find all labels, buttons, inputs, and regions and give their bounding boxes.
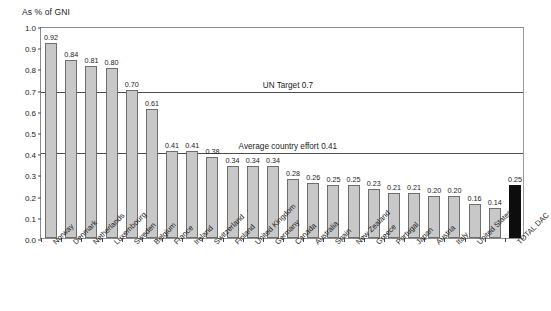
bar[interactable] xyxy=(106,68,118,238)
bar-value-label: 0.70 xyxy=(125,80,139,89)
y-axis-tick-label: 0.8 xyxy=(25,66,36,75)
plot-area: 1.00.90.80.70.60.50.40.30.20.10.0 UN Tar… xyxy=(40,27,524,239)
y-axis-tick-label: 0.2 xyxy=(25,193,36,202)
bar-group: 0.14 xyxy=(485,28,505,238)
y-axis-tick-label: 0.0 xyxy=(25,236,36,245)
bar-group: 0.25 xyxy=(344,28,364,238)
bar[interactable] xyxy=(65,60,77,238)
bar-group: 0.84 xyxy=(61,28,81,238)
bar-group: 0.34 xyxy=(223,28,243,238)
y-axis-tick-label: 0.9 xyxy=(25,45,36,54)
bar-group: 0.16 xyxy=(465,28,485,238)
y-axis-tick-label: 0.7 xyxy=(25,87,36,96)
bar-group: 0.34 xyxy=(243,28,263,238)
bar-group: 0.92 xyxy=(41,28,61,238)
bar-group: 0.21 xyxy=(404,28,424,238)
bar-value-label: 0.34 xyxy=(246,156,260,165)
bar-value-label: 0.25 xyxy=(326,175,340,184)
bar-group: 0.41 xyxy=(182,28,202,238)
bar-group: 0.25 xyxy=(323,28,343,238)
bar-value-label: 0.34 xyxy=(226,156,240,165)
bar-value-label: 0.25 xyxy=(508,175,522,184)
bar-value-label: 0.41 xyxy=(185,141,199,150)
bar-group: 0.26 xyxy=(303,28,323,238)
y-axis-tick-label: 0.1 xyxy=(25,214,36,223)
chart-container: As % of GNI 1.00.90.80.70.60.50.40.30.20… xyxy=(0,0,551,311)
bar-value-label: 0.26 xyxy=(306,173,320,182)
bar-group: 0.61 xyxy=(142,28,162,238)
bar-value-label: 0.21 xyxy=(407,183,421,192)
bar-value-label: 0.84 xyxy=(64,50,78,59)
bar-group: 0.34 xyxy=(263,28,283,238)
bar-value-label: 0.20 xyxy=(427,186,441,195)
bar-value-label: 0.61 xyxy=(145,99,159,108)
bar-group: 0.80 xyxy=(102,28,122,238)
bar-value-label: 0.16 xyxy=(468,194,482,203)
bar-value-label: 0.34 xyxy=(266,156,280,165)
bar[interactable] xyxy=(45,43,57,238)
bar-value-label: 0.81 xyxy=(84,56,98,65)
bar-series: 0.920.840.810.800.700.610.410.410.380.34… xyxy=(41,28,523,238)
bar[interactable] xyxy=(469,204,481,238)
y-axis-tick-label: 1.0 xyxy=(25,24,36,33)
bar-group: 0.70 xyxy=(122,28,142,238)
x-axis-labels: NorwayDenmarkNetherlandsLuxembourgSweden… xyxy=(40,240,524,311)
y-axis-tick-label: 0.4 xyxy=(25,151,36,160)
bar[interactable] xyxy=(146,109,158,238)
bar-group: 0.20 xyxy=(444,28,464,238)
bar-group: 0.21 xyxy=(384,28,404,238)
bar-value-label: 0.41 xyxy=(165,141,179,150)
bar-value-label: 0.38 xyxy=(205,147,219,156)
bar-group: 0.20 xyxy=(424,28,444,238)
bar-group: 0.25 xyxy=(505,28,525,238)
bar-value-label: 0.23 xyxy=(367,179,381,188)
bar-value-label: 0.25 xyxy=(347,175,361,184)
bar-value-label: 0.80 xyxy=(105,58,119,67)
y-axis-tick-label: 0.6 xyxy=(25,108,36,117)
bar-value-label: 0.28 xyxy=(286,169,300,178)
y-axis-tick-label: 0.3 xyxy=(25,172,36,181)
bar-group: 0.41 xyxy=(162,28,182,238)
bar-value-label: 0.14 xyxy=(488,198,502,207)
bar-value-label: 0.92 xyxy=(44,33,58,42)
bar-group: 0.23 xyxy=(364,28,384,238)
bar-group: 0.38 xyxy=(202,28,222,238)
y-axis-tick-label: 0.5 xyxy=(25,130,36,139)
bar-group: 0.81 xyxy=(81,28,101,238)
bar-value-label: 0.21 xyxy=(387,183,401,192)
bar[interactable] xyxy=(85,66,97,238)
y-axis-title: As % of GNI xyxy=(22,7,70,17)
bar-value-label: 0.20 xyxy=(447,186,461,195)
